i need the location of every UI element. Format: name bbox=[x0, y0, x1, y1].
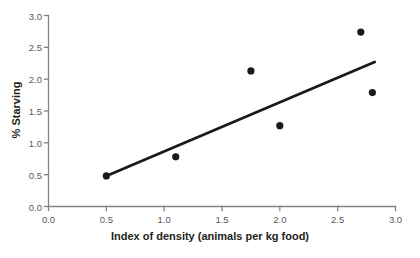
scatter-plot-figure: 0.00.51.01.52.02.53.00.00.51.01.52.02.53… bbox=[0, 0, 420, 258]
data-point-marker bbox=[369, 89, 376, 96]
x-tick-label: 2.5 bbox=[331, 214, 344, 225]
data-point-marker bbox=[172, 153, 179, 160]
x-tick-label: 2.0 bbox=[273, 214, 286, 225]
data-point-marker bbox=[276, 122, 283, 129]
trend-line-group bbox=[106, 62, 374, 176]
y-tick-label: 1.0 bbox=[8, 137, 42, 148]
y-tick-label: 3.0 bbox=[8, 10, 42, 21]
y-tick-label: 0.5 bbox=[8, 169, 42, 180]
trend-line bbox=[106, 62, 374, 176]
y-tick-label: 2.5 bbox=[8, 42, 42, 53]
data-points-group bbox=[103, 28, 376, 179]
x-tick-label: 0.5 bbox=[100, 214, 113, 225]
data-point-marker bbox=[247, 67, 254, 74]
x-tick-label: 1.0 bbox=[158, 214, 171, 225]
y-tick-label: 0.0 bbox=[8, 201, 42, 212]
plot-canvas bbox=[0, 0, 420, 258]
y-axis-title: % Starving bbox=[10, 82, 22, 139]
x-tick-label: 1.5 bbox=[215, 214, 228, 225]
data-point-marker bbox=[357, 28, 364, 35]
x-tick-label: 0.0 bbox=[42, 214, 55, 225]
x-tick-label: 3.0 bbox=[389, 214, 402, 225]
data-point-marker bbox=[103, 172, 110, 179]
x-axis-title: Index of density (animals per kg food) bbox=[111, 230, 309, 242]
axis-ticks-group bbox=[45, 16, 396, 211]
axes-group bbox=[49, 16, 396, 207]
